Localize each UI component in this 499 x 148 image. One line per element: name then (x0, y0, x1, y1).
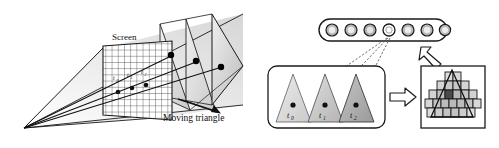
left-diagram: t 0 t 1 t 2 Screen Moving triangle (0, 0, 255, 148)
left-diagram-svg: t 0 t 1 t 2 (0, 0, 255, 148)
svg-text:2: 2 (354, 115, 357, 121)
cache-slot[interactable] (364, 24, 376, 36)
cache-slot[interactable] (345, 24, 357, 36)
cache-slot[interactable] (402, 24, 414, 36)
map-arrow-icon (390, 88, 416, 106)
screen-label: Screen (112, 33, 137, 42)
svg-text:1: 1 (131, 75, 133, 80)
right-diagram: t 0 t 1 t 2 (255, 0, 499, 148)
figure-container: t 0 t 1 t 2 Screen Moving triangle (0, 0, 499, 148)
right-diagram-svg: t 0 t 1 t 2 (255, 0, 499, 148)
moving-triangle-label: Moving triangle (163, 114, 224, 124)
svg-text:0: 0 (117, 78, 119, 83)
cache-slot[interactable] (326, 24, 338, 36)
cache-slot[interactable] (421, 24, 433, 36)
cache-slot-selected[interactable] (383, 24, 395, 36)
cache-slot[interactable] (439, 24, 450, 35)
svg-text:0: 0 (291, 115, 294, 121)
svg-text:2: 2 (145, 72, 147, 77)
memoization-cache[interactable] (319, 19, 451, 41)
svg-text:1: 1 (323, 115, 326, 121)
